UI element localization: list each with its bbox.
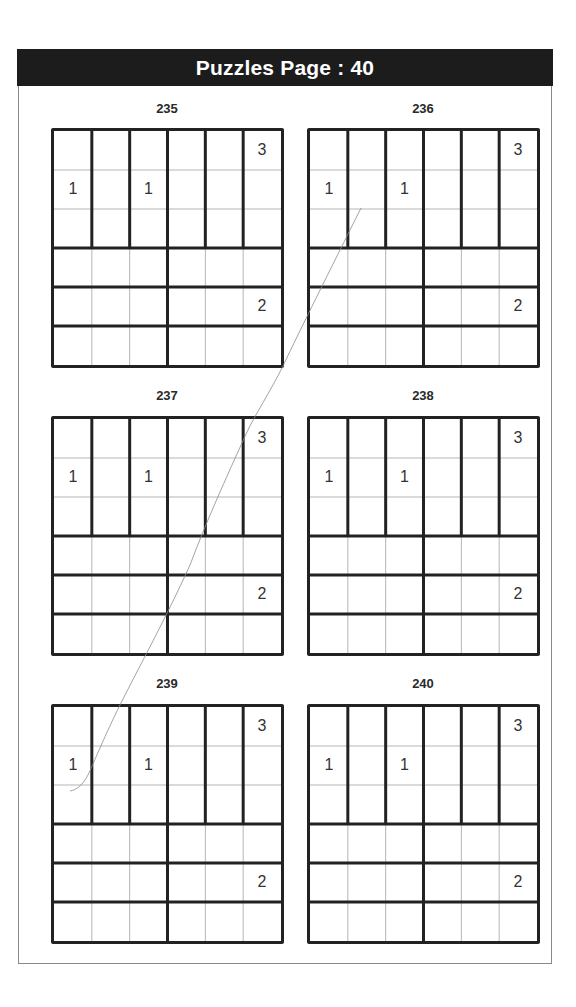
puzzle-number: 240: [307, 676, 539, 691]
clue-number: 3: [499, 429, 537, 447]
clue-number: 3: [499, 717, 537, 735]
clue-number: 1: [310, 756, 348, 774]
clue-number: 2: [243, 297, 281, 315]
clue-number: 1: [310, 468, 348, 486]
puzzle-grid[interactable]: 3112: [307, 416, 540, 656]
puzzle-grid[interactable]: 3112: [51, 704, 284, 944]
clue-number: 1: [130, 756, 168, 774]
clue-number: 2: [499, 873, 537, 891]
clue-number: 2: [499, 297, 537, 315]
clue-number: 1: [54, 468, 92, 486]
clue-number: 1: [386, 468, 424, 486]
grid-lines: [54, 707, 281, 941]
grid-lines: [310, 419, 537, 653]
puzzle-number: 235: [51, 101, 283, 116]
clue-number: 2: [243, 585, 281, 603]
clue-number: 1: [310, 180, 348, 198]
clue-number: 1: [54, 756, 92, 774]
clue-number: 1: [54, 180, 92, 198]
grid-lines: [54, 419, 281, 653]
clue-number: 1: [130, 180, 168, 198]
clue-number: 3: [499, 141, 537, 159]
puzzle-number: 236: [307, 101, 539, 116]
puzzle-number: 238: [307, 388, 539, 403]
puzzle-grid[interactable]: 3112: [51, 128, 284, 368]
grid-lines: [310, 131, 537, 365]
grid-lines: [310, 707, 537, 941]
clue-number: 3: [243, 141, 281, 159]
clue-number: 2: [499, 585, 537, 603]
clue-number: 1: [386, 180, 424, 198]
clue-number: 3: [243, 717, 281, 735]
clue-number: 1: [386, 756, 424, 774]
clue-number: 2: [243, 873, 281, 891]
puzzle-grid[interactable]: 3112: [307, 704, 540, 944]
grid-lines: [54, 131, 281, 365]
puzzle-grid[interactable]: 3112: [307, 128, 540, 368]
puzzle-number: 237: [51, 388, 283, 403]
clue-number: 3: [243, 429, 281, 447]
clue-number: 1: [130, 468, 168, 486]
page-header: Puzzles Page : 40: [17, 49, 553, 86]
puzzle-number: 239: [51, 676, 283, 691]
puzzle-grid[interactable]: 3112: [51, 416, 284, 656]
